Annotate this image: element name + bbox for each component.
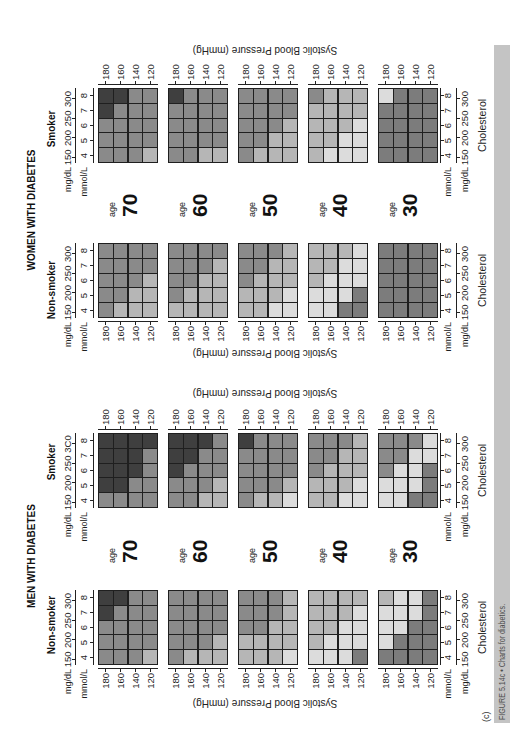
age-label-men-40: age40 bbox=[317, 540, 350, 563]
risk-cell bbox=[254, 119, 268, 133]
mmol-tick-label: 5 bbox=[79, 135, 89, 147]
risk-grid-women-smoker-age-50 bbox=[238, 88, 298, 163]
risk-cell bbox=[423, 119, 437, 133]
risk-cell bbox=[423, 89, 437, 103]
risk-cell bbox=[353, 133, 367, 147]
risk-cell bbox=[99, 133, 113, 147]
mmol-tick-label: 6 bbox=[443, 120, 453, 132]
risk-cell bbox=[339, 148, 353, 162]
bp-axis-line bbox=[378, 84, 438, 85]
risk-cell bbox=[409, 104, 423, 118]
age-number: 60 bbox=[190, 540, 210, 563]
mmol-tick-label: 8 bbox=[79, 90, 89, 102]
risk-cell bbox=[184, 104, 198, 118]
risk-cell bbox=[213, 89, 227, 103]
risk-cell bbox=[269, 133, 283, 147]
age-number: 50 bbox=[260, 540, 280, 563]
risk-cell bbox=[409, 133, 423, 147]
mgdl-tick-label: 150 bbox=[460, 147, 470, 167]
mgdl-tick-label: 300 bbox=[460, 89, 470, 109]
risk-cell bbox=[324, 133, 338, 147]
age-word: age bbox=[247, 540, 257, 563]
bp-tick-mark bbox=[220, 81, 221, 84]
risk-cell bbox=[394, 119, 408, 133]
risk-cell bbox=[254, 133, 268, 147]
risk-cell bbox=[394, 148, 408, 162]
figure-caption: FIGURE 5.14c • Charts for diabetics. bbox=[494, 604, 510, 720]
bp-tick-label: 120 bbox=[356, 50, 366, 80]
mmol-tick-label: 7 bbox=[79, 105, 89, 117]
bp-tick-label: 120 bbox=[426, 50, 436, 80]
risk-cell bbox=[379, 119, 393, 133]
bp-tick-mark bbox=[135, 81, 136, 84]
age-word: age bbox=[387, 540, 397, 563]
risk-cell bbox=[379, 104, 393, 118]
risk-cell bbox=[379, 148, 393, 162]
age-label-women-30: age30 bbox=[387, 194, 420, 217]
age-number: 70 bbox=[120, 194, 140, 217]
risk-grid-women-smoker-age-70 bbox=[98, 88, 158, 163]
bp-tick-label: 180 bbox=[381, 50, 391, 80]
bp-tick-label: 180 bbox=[101, 50, 111, 80]
risk-cell bbox=[269, 89, 283, 103]
bp-tick-mark bbox=[190, 81, 191, 84]
risk-cell bbox=[283, 119, 297, 133]
mmol-tick-mark bbox=[90, 140, 93, 141]
risk-cell bbox=[143, 148, 157, 162]
risk-cell bbox=[169, 133, 183, 147]
mgdl-tick-label: 300 bbox=[63, 89, 73, 109]
panel-letter: (c) bbox=[481, 712, 491, 723]
risk-cell bbox=[184, 119, 198, 133]
risk-cell bbox=[283, 148, 297, 162]
risk-cell bbox=[254, 148, 268, 162]
age-label-women-60: age60 bbox=[177, 194, 210, 217]
bp-tick-label: 160 bbox=[186, 50, 196, 80]
risk-cell bbox=[309, 104, 323, 118]
mgdl-unit-label: mg/dL bbox=[63, 167, 73, 207]
age-number: 30 bbox=[400, 194, 420, 217]
cholesterol-mmol-axis-line bbox=[93, 88, 94, 163]
age-word: age bbox=[107, 194, 117, 217]
risk-cell bbox=[99, 89, 113, 103]
bp-tick-mark bbox=[330, 81, 331, 84]
risk-cell bbox=[184, 148, 198, 162]
bp-tick-mark bbox=[385, 81, 386, 84]
risk-cell bbox=[353, 119, 367, 133]
risk-cell bbox=[239, 133, 253, 147]
mgdl-tick-label: 200 bbox=[460, 128, 470, 148]
risk-cell bbox=[99, 148, 113, 162]
risk-cell bbox=[254, 89, 268, 103]
risk-cell bbox=[213, 133, 227, 147]
age-number: 40 bbox=[330, 194, 350, 217]
risk-cell bbox=[269, 148, 283, 162]
age-number: 50 bbox=[260, 194, 280, 217]
risk-cell bbox=[114, 89, 128, 103]
bp-tick-label: 140 bbox=[131, 50, 141, 80]
bp-tick-mark bbox=[175, 81, 176, 84]
risk-cell bbox=[269, 104, 283, 118]
bp-tick-label: 140 bbox=[341, 50, 351, 80]
risk-cell bbox=[324, 89, 338, 103]
bp-tick-label: 160 bbox=[326, 50, 336, 80]
bp-tick-mark bbox=[290, 81, 291, 84]
risk-cell bbox=[423, 148, 437, 162]
age-label-men-70: age70 bbox=[107, 540, 140, 563]
risk-cell bbox=[269, 119, 283, 133]
risk-cell bbox=[324, 104, 338, 118]
age-word: age bbox=[177, 194, 187, 217]
mmol-tick-mark bbox=[90, 95, 93, 96]
risk-cell bbox=[409, 89, 423, 103]
age-word: age bbox=[177, 540, 187, 563]
bp-tick-label: 140 bbox=[411, 50, 421, 80]
chart-column-women-smoker: 18016014012045678150200250300mmol/Lmg/dL… bbox=[0, 0, 530, 742]
mmol-tick-label: 5 bbox=[443, 135, 453, 147]
risk-cell bbox=[239, 119, 253, 133]
bp-tick-mark bbox=[205, 81, 206, 84]
bp-tick-mark bbox=[245, 81, 246, 84]
risk-cell bbox=[324, 119, 338, 133]
bp-tick-label: 120 bbox=[146, 50, 156, 80]
bp-axis-line bbox=[238, 84, 298, 85]
bp-tick-mark bbox=[360, 81, 361, 84]
risk-cell bbox=[339, 89, 353, 103]
risk-cell bbox=[143, 104, 157, 118]
